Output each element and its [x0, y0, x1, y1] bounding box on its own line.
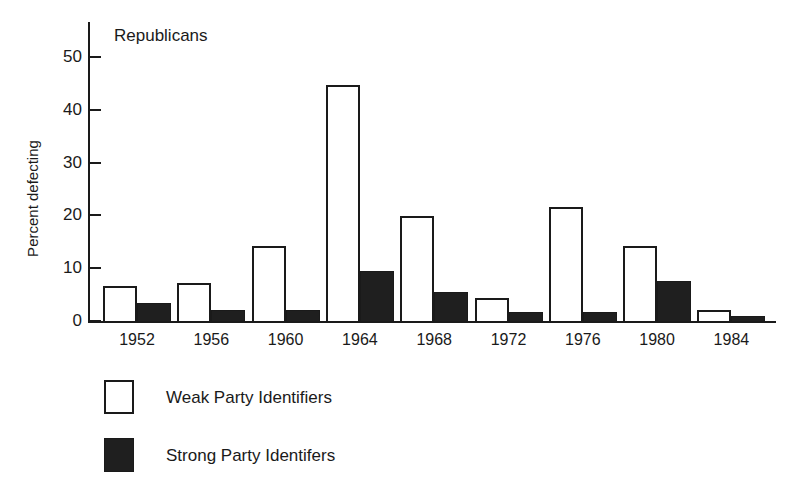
y-axis-tick	[90, 162, 101, 164]
bar-1960-strong	[286, 310, 320, 321]
x-axis-label-1960: 1960	[250, 331, 322, 349]
bar-1968-strong	[434, 292, 468, 321]
x-axis-label-1980: 1980	[621, 331, 693, 349]
bar-1956-weak	[177, 283, 211, 321]
x-axis-label-1964: 1964	[324, 331, 396, 349]
legend-label-weak: Weak Party Identifiers	[166, 388, 332, 408]
bar-1952-weak	[103, 286, 137, 321]
chart-title: Republicans	[114, 26, 208, 46]
y-axis-tick-label: 0	[38, 312, 82, 329]
bar-1968-weak	[400, 216, 434, 321]
x-axis-label-1984: 1984	[695, 331, 767, 349]
y-axis-tick	[90, 267, 101, 269]
bar-1972-weak	[475, 298, 509, 321]
bar-1964-weak	[326, 85, 360, 321]
x-axis-label-1952: 1952	[101, 331, 173, 349]
legend-swatch-strong	[104, 438, 134, 472]
y-axis-tick-label-text: 30	[44, 154, 82, 171]
y-axis-tick-label-text: 0	[44, 312, 82, 329]
bar-1976-weak	[549, 207, 583, 321]
y-axis-tick-label-text: 50	[44, 48, 82, 65]
y-axis-tick-label: 20	[38, 206, 82, 223]
y-axis-line	[88, 22, 90, 323]
y-axis-tick-label-text: 40	[44, 101, 82, 118]
y-axis-tick	[90, 320, 101, 322]
bar-1984-weak	[697, 310, 731, 321]
y-axis-tick-label: 40	[38, 101, 82, 118]
y-axis-tick-label-text: 10	[44, 259, 82, 276]
y-axis-tick-label: 30	[38, 154, 82, 171]
bar-1956-strong	[211, 310, 245, 321]
bar-1980-strong	[657, 281, 691, 321]
bar-1952-strong	[137, 303, 171, 321]
bar-1964-strong	[360, 271, 394, 321]
bar-chart-plot: Republicans Percent defecting 0102030405…	[0, 0, 802, 484]
bar-1972-strong	[509, 312, 543, 321]
y-axis-tick	[90, 109, 101, 111]
chart-figure: Republicans Percent defecting 0102030405…	[0, 0, 802, 484]
bar-1960-weak	[252, 246, 286, 321]
bar-1980-weak	[623, 246, 657, 321]
bar-1976-strong	[583, 312, 617, 321]
legend-label-strong: Strong Party Identifers	[166, 446, 335, 466]
y-axis-tick	[90, 214, 101, 216]
bar-1984-strong	[731, 316, 765, 321]
y-axis-tick	[90, 56, 101, 58]
y-axis-tick-label: 10	[38, 259, 82, 276]
x-axis-label-1968: 1968	[398, 331, 470, 349]
y-axis-tick-label: 50	[38, 48, 82, 65]
y-axis-tick-label-text: 20	[44, 206, 82, 223]
y-axis-title: Percent defecting	[24, 119, 41, 279]
x-axis-label-1956: 1956	[175, 331, 247, 349]
x-axis-line	[88, 321, 776, 323]
x-axis-label-1972: 1972	[473, 331, 545, 349]
legend-swatch-weak	[104, 380, 134, 414]
x-axis-label-1976: 1976	[547, 331, 619, 349]
